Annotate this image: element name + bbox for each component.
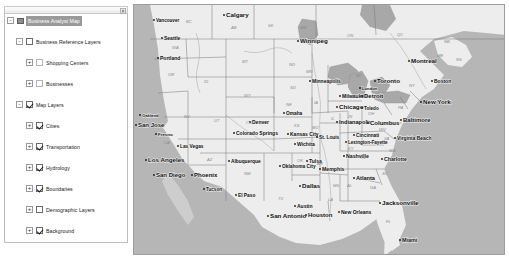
state-abbreviation-label: FL: [386, 219, 392, 224]
state-abbreviation-label: AL: [346, 183, 353, 188]
layer-tree[interactable]: -Business Analyst Map-Business Reference…: [7, 16, 125, 126]
expand-icon[interactable]: +: [26, 59, 33, 66]
expand-icon[interactable]: +: [26, 122, 33, 129]
state-abbreviation-label: PA: [398, 105, 403, 110]
city-label: Omaha: [286, 111, 303, 116]
layer-tree-item[interactable]: +Shopping Centers: [7, 58, 125, 68]
layer-tree-item[interactable]: +Cities: [7, 121, 125, 131]
city-label: Indianapolis: [339, 119, 372, 125]
layer-tree-item-label: Businesses: [46, 79, 73, 89]
city-label: Virginia Beach: [397, 135, 432, 141]
city-marker: [223, 14, 225, 16]
layer-tree-item[interactable]: +Hydrology: [7, 163, 125, 173]
layer-visibility-checkbox[interactable]: [36, 164, 43, 171]
collapse-icon[interactable]: -: [16, 101, 23, 108]
city-label: Fresno: [158, 132, 173, 137]
city-marker: [294, 205, 296, 207]
city-label: Atlanta: [356, 175, 376, 181]
map-canvas[interactable]: VancouverCalgarySeattlePortlandWinnipegO…: [133, 4, 505, 255]
state-abbreviation-label: AR: [316, 161, 323, 166]
expand-icon[interactable]: +: [26, 206, 33, 213]
layer-visibility-checkbox[interactable]: [36, 227, 43, 234]
city-marker: [381, 158, 383, 160]
city-marker: [353, 134, 355, 136]
expand-icon[interactable]: +: [26, 143, 33, 150]
city-label: Portland: [160, 55, 180, 61]
city-marker: [157, 57, 159, 59]
layer-tree-item-label: Boundaries: [46, 184, 73, 194]
city-label: San Antonio: [270, 212, 306, 219]
expand-icon[interactable]: +: [26, 164, 33, 171]
city-label: Los Angeles: [148, 156, 185, 163]
layer-visibility-checkbox[interactable]: [36, 185, 43, 192]
layer-visibility-checkbox[interactable]: [26, 101, 33, 108]
city-label: Jacksonville: [382, 199, 419, 206]
state-abbreviation-label: MT: [242, 59, 248, 64]
city-marker: [235, 194, 237, 196]
city-marker: [153, 19, 155, 21]
state-abbreviation-label: ND: [289, 62, 295, 67]
layer-tree-item[interactable]: +Background: [7, 226, 125, 236]
city-label: Chicago: [339, 103, 364, 110]
city-marker: [294, 143, 296, 145]
state-abbreviation-label: LA: [328, 197, 333, 202]
state-abbreviation-label: NM: [244, 171, 251, 176]
city-label: San Diego: [156, 172, 186, 178]
city-marker: [191, 174, 193, 176]
layer-tree-item[interactable]: +Transportation: [7, 142, 125, 152]
state-abbreviation-label: OR: [168, 72, 174, 77]
layer-visibility-checkbox[interactable]: [36, 122, 43, 129]
layer-tree-item[interactable]: -Business Reference Layers: [7, 37, 125, 47]
city-marker: [203, 188, 205, 190]
state-abbreviation-label: CO: [246, 120, 253, 125]
layer-tree-item[interactable]: +Boundaries: [7, 184, 125, 194]
layer-tree-item[interactable]: -Business Analyst Map: [7, 16, 125, 26]
expand-icon[interactable]: +: [26, 227, 33, 234]
city-marker: [287, 133, 289, 135]
city-label: Tucson: [206, 187, 222, 192]
city-label: Baltimore: [403, 117, 431, 123]
city-label: Detroit: [364, 93, 383, 99]
layer-tree-item[interactable]: -Map Layers: [7, 100, 125, 110]
layer-visibility-checkbox[interactable]: [36, 80, 43, 87]
expand-icon[interactable]: +: [26, 80, 33, 87]
layer-visibility-checkbox[interactable]: [36, 143, 43, 150]
toc-title-bar[interactable]: ×: [4, 6, 128, 14]
state-abbreviation-label: AB: [230, 25, 237, 30]
city-label: Montreal: [411, 57, 437, 64]
state-abbreviation-label: MB: [300, 25, 306, 30]
state-abbreviation-label: BC: [186, 19, 193, 24]
city-label: Memphis: [322, 166, 345, 172]
layer-tree-item[interactable]: +Demographic Layers: [7, 205, 125, 215]
layer-tree-item-label: Business Analyst Map: [26, 16, 82, 26]
city-marker: [359, 87, 361, 89]
city-label: New Orleans: [341, 209, 372, 215]
layer-visibility-checkbox[interactable]: [26, 38, 33, 45]
table-of-contents-panel: × -Business Analyst Map-Business Referen…: [4, 6, 128, 243]
expand-icon[interactable]: +: [26, 185, 33, 192]
city-label: Albuquerque: [231, 159, 261, 164]
collapse-icon[interactable]: -: [16, 38, 23, 45]
layer-tree-item[interactable]: +Businesses: [7, 79, 125, 89]
city-label: Boston: [434, 78, 451, 84]
city-marker: [361, 107, 363, 109]
layer-visibility-checkbox[interactable]: [36, 206, 43, 213]
layer-tree-item-label: Shopping Centers: [46, 58, 88, 68]
collapse-icon[interactable]: -: [7, 17, 14, 24]
state-abbreviation-label: NE: [286, 102, 292, 107]
city-label: London: [362, 86, 378, 91]
city-marker: [135, 124, 137, 126]
city-label: Oklahoma City: [282, 164, 316, 169]
state-abbreviation-label: OH: [368, 111, 375, 116]
city-label: San Jose: [138, 122, 165, 128]
city-marker: [228, 160, 230, 162]
city-label: Minneapolis: [312, 78, 341, 84]
toc-body[interactable]: -Business Analyst Map-Business Reference…: [4, 14, 128, 243]
layer-visibility-checkbox[interactable]: [36, 59, 43, 66]
state-abbreviation-label: SC: [382, 171, 389, 176]
state-abbreviation-label: SD: [290, 85, 296, 90]
city-label: Phoenix: [194, 172, 218, 178]
state-abbreviation-label: CA: [164, 140, 170, 145]
layer-tree-item-label: Map Layers: [36, 100, 64, 110]
city-label: Vancouver: [156, 18, 179, 23]
